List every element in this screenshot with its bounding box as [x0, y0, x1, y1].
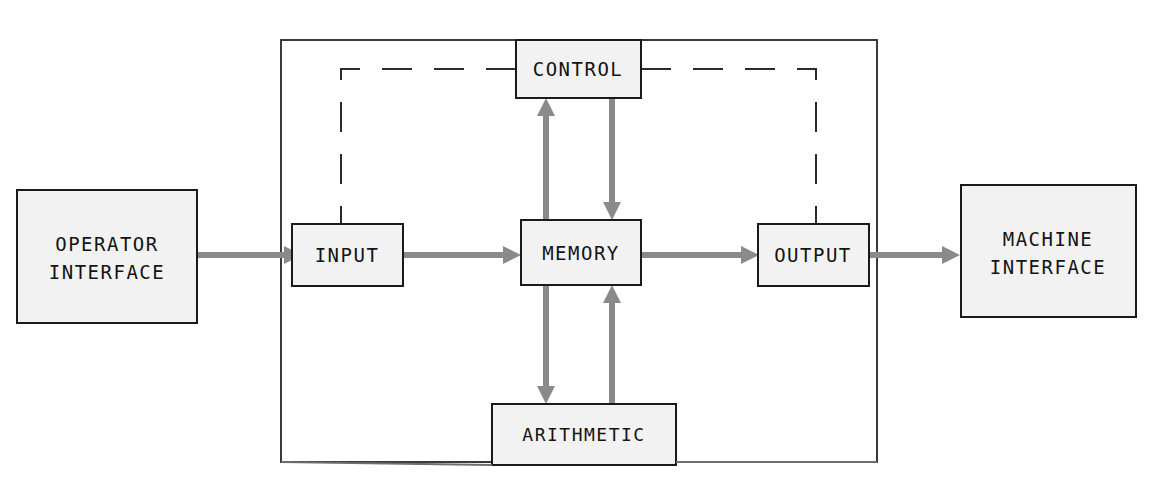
input-label: INPUT: [315, 244, 380, 266]
arrow-control-to-memory: [603, 98, 621, 220]
block-diagram-canvas: OPERATOR INTERFACE INPUT CONTROL MEMORY …: [0, 0, 1154, 479]
output-box: OUTPUT: [758, 224, 869, 286]
operator-interface-label-line1: OPERATOR: [55, 233, 159, 255]
arrow-operator-to-input: [197, 246, 302, 264]
arrow-memory-to-output: [641, 246, 759, 264]
machine-interface-box: MACHINE INTERFACE: [961, 185, 1136, 317]
control-to-input-signal-line: [341, 69, 516, 224]
machine-interface-label-line1: MACHINE: [1003, 228, 1094, 250]
machine-interface-label-line2: INTERFACE: [990, 256, 1106, 278]
computer-architecture-diagram: OPERATOR INTERFACE INPUT CONTROL MEMORY …: [0, 0, 1154, 479]
arrow-output-to-machine: [869, 246, 960, 264]
arrow-input-to-memory: [403, 246, 521, 264]
operator-interface-label-line2: INTERFACE: [49, 261, 165, 283]
arrow-memory-to-arithmetic: [537, 285, 555, 404]
arrow-memory-to-control: [537, 98, 555, 220]
memory-box: MEMORY: [521, 220, 641, 285]
operator-interface-box: OPERATOR INTERFACE: [17, 190, 197, 323]
input-box: INPUT: [292, 224, 403, 286]
control-to-output-signal-line: [641, 69, 816, 224]
arithmetic-label: ARITHMETIC: [522, 424, 645, 445]
arithmetic-box: ARITHMETIC: [492, 404, 676, 465]
output-label: OUTPUT: [774, 244, 852, 266]
control-label: CONTROL: [533, 58, 624, 80]
memory-label: MEMORY: [542, 242, 620, 264]
arrow-arithmetic-to-memory: [603, 285, 621, 404]
control-box: CONTROL: [516, 40, 641, 98]
